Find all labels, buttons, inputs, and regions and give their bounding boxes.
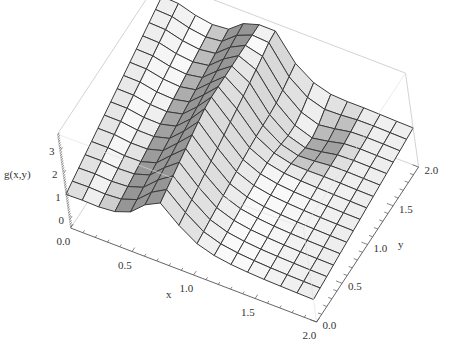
x-tick-label: 2.0 <box>303 329 317 341</box>
z-tick-label: 2 <box>52 168 58 180</box>
y-tick-label: 1.0 <box>374 242 388 254</box>
y-tick-label: 0.0 <box>323 319 337 331</box>
x-tick-label: 0.5 <box>118 259 132 271</box>
y-axis-label: y <box>398 238 404 250</box>
x-tick-label: 1.0 <box>180 282 194 294</box>
z-tick-label: 1 <box>55 191 61 203</box>
x-axis-label: x <box>166 288 172 300</box>
x-tick-label: 1.5 <box>241 306 255 318</box>
z-axis-label: g(x,y) <box>4 168 31 181</box>
z-tick-label: 0 <box>59 214 65 226</box>
y-tick-label: 0.5 <box>348 280 362 292</box>
z-tick-label: 3 <box>49 145 55 157</box>
y-tick-label: 1.5 <box>399 203 413 215</box>
surface-plot: 0.00.51.01.52.0 0.00.51.01.52.0 0123 x y… <box>0 0 449 352</box>
x-tick-label: 0.0 <box>57 235 71 247</box>
y-tick-label: 2.0 <box>425 164 439 176</box>
z-axis: 0123 <box>49 133 72 227</box>
